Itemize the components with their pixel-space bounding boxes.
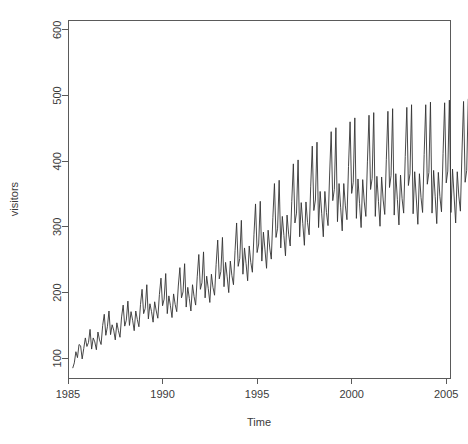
x-axis-ticks	[68, 378, 446, 384]
x-tick-label: 1985	[56, 388, 80, 400]
y-axis-ticks	[62, 30, 68, 358]
y-tick-label: 500	[51, 86, 63, 104]
time-series-chart: 100200300400500600 19851990199520002005 …	[0, 0, 468, 444]
y-tick-label: 600	[51, 21, 63, 39]
x-tick-label: 1990	[150, 388, 174, 400]
chart-container: 100200300400500600 19851990199520002005 …	[0, 0, 468, 444]
x-tick-label: 1995	[245, 388, 269, 400]
y-tick-label: 100	[51, 349, 63, 367]
series-line	[73, 99, 468, 368]
y-tick-label: 300	[51, 218, 63, 236]
y-tick-label: 200	[51, 283, 63, 301]
y-axis-title: visitors	[8, 181, 20, 216]
series-visitors	[73, 99, 468, 368]
x-tick-label: 2005	[434, 388, 458, 400]
x-axis-tick-labels: 19851990199520002005	[56, 388, 459, 400]
y-axis-tick-labels: 100200300400500600	[51, 21, 63, 368]
x-axis-title: Time	[247, 416, 271, 428]
y-tick-label: 400	[51, 152, 63, 170]
x-tick-label: 2000	[339, 388, 363, 400]
